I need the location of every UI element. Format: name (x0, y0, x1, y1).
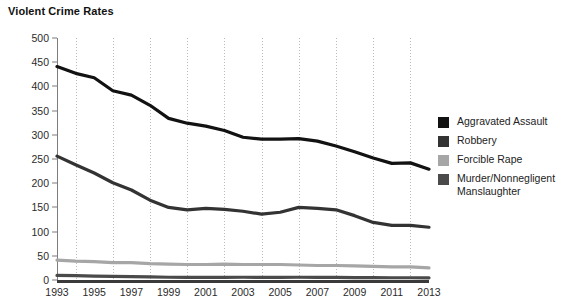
legend-swatch-icon (438, 155, 449, 166)
y-axis-tick-label: 200 (31, 177, 49, 189)
legend-swatch-icon (438, 136, 449, 147)
page-title: Violent Crime Rates (8, 5, 114, 17)
y-axis-tick-label: 350 (31, 105, 49, 117)
plot-area: 050100150200250300350400450500 199319951… (57, 38, 429, 280)
legend-item[interactable]: Murder/Nonnegligent Manslaughter (438, 172, 582, 198)
x-axis-tick-label: 2009 (343, 286, 366, 298)
series-lines (57, 38, 429, 280)
legend-item-label: Robbery (457, 134, 497, 147)
x-axis-line (57, 280, 429, 283)
y-axis-tick-label: 150 (31, 201, 49, 213)
y-axis-tick-label: 400 (31, 80, 49, 92)
legend-item-label: Murder/Nonnegligent Manslaughter (457, 172, 582, 198)
x-axis-tick-label: 2013 (417, 286, 440, 298)
x-axis-tick-label: 2001 (194, 286, 217, 298)
legend-item[interactable]: Forcible Rape (438, 153, 582, 166)
x-axis-tick-label: 2005 (269, 286, 292, 298)
x-axis-tick-label: 2011 (381, 286, 404, 298)
x-axis-tick-label: 1995 (83, 286, 106, 298)
chart-page: Violent Crime Rates 05010015020025030035… (0, 0, 582, 300)
series-line (57, 275, 429, 277)
x-axis-tick-label: 1997 (120, 286, 143, 298)
legend-item-label: Forcible Rape (457, 153, 522, 166)
y-axis-tick-label: 0 (43, 274, 49, 286)
x-axis-tick-label: 2007 (306, 286, 329, 298)
y-axis-tick-label: 250 (31, 153, 49, 165)
y-axis-tick-label: 450 (31, 56, 49, 68)
y-axis-tick-label: 50 (37, 250, 49, 262)
x-axis-tick-label: 1999 (157, 286, 180, 298)
y-axis-tick-label: 300 (31, 129, 49, 141)
legend-item-label: Aggravated Assault (457, 115, 547, 128)
x-axis-tick-label: 1993 (45, 286, 68, 298)
legend-item[interactable]: Aggravated Assault (438, 115, 582, 128)
legend-item[interactable]: Robbery (438, 134, 582, 147)
series-line (57, 67, 429, 170)
x-axis-tick-label: 2003 (231, 286, 254, 298)
series-line (57, 156, 429, 227)
plot-area-wrapper: 050100150200250300350400450500 199319951… (0, 26, 440, 296)
series-line (57, 260, 429, 268)
legend-swatch-icon (438, 117, 449, 128)
chart-legend: Aggravated AssaultRobberyForcible RapeMu… (438, 115, 582, 204)
y-axis-tick-label: 100 (31, 226, 49, 238)
legend-swatch-icon (438, 174, 449, 185)
y-axis-tick-label: 500 (31, 32, 49, 44)
